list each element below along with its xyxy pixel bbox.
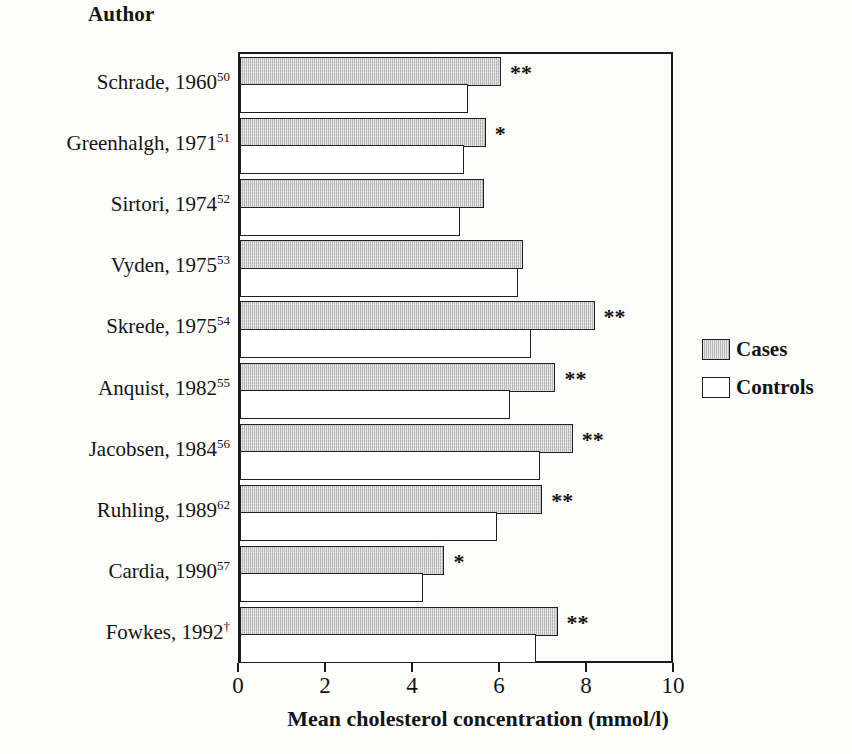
category-label: Sirtori, 197452 (8, 192, 238, 217)
x-axis-tick-label: 4 (406, 673, 418, 699)
bar-controls (240, 268, 518, 297)
bar-controls (240, 512, 497, 541)
bar-cases (240, 546, 444, 575)
bar-group: ** (240, 298, 671, 359)
legend-item-controls: Controls (702, 375, 847, 399)
category-label: Cardia, 199057 (8, 559, 238, 584)
bar-group: ** (240, 360, 671, 421)
bar-group: ** (240, 54, 671, 115)
bar-cases (240, 424, 573, 453)
significance-marker: ** (604, 306, 626, 328)
x-axis-tick (324, 663, 326, 672)
category-label: Schrade, 196050 (8, 70, 238, 95)
significance-marker: ** (551, 490, 573, 512)
legend: Cases Controls (702, 337, 847, 413)
bar-controls (240, 145, 464, 174)
x-axis-tick (498, 663, 500, 672)
x-axis-tick (237, 663, 239, 672)
bar-controls (240, 573, 423, 602)
x-axis-tick (672, 663, 674, 672)
bar-controls (240, 207, 460, 236)
category-axis-labels: Schrade, 196050Greenhalgh, 197151Sirtori… (0, 52, 238, 663)
bar-controls (240, 329, 531, 358)
significance-marker: ** (510, 62, 532, 84)
significance-marker: ** (564, 368, 586, 390)
bar-controls (240, 451, 540, 480)
category-label: Greenhalgh, 197151 (8, 131, 238, 156)
bar-cases (240, 607, 558, 636)
category-label: Anquist, 198255 (8, 376, 238, 401)
x-axis-tick-label: 10 (662, 673, 685, 699)
x-axis-tick-label: 0 (232, 673, 244, 699)
bar-cases (240, 363, 555, 392)
legend-item-cases: Cases (702, 337, 847, 361)
significance-marker: * (495, 123, 506, 145)
x-axis-tick-label: 2 (319, 673, 331, 699)
bar-group: * (240, 543, 671, 604)
bar-controls (240, 84, 468, 113)
x-axis-tick-label: 8 (580, 673, 592, 699)
category-label: Ruhling, 198962 (8, 498, 238, 523)
bar-group: ** (240, 421, 671, 482)
plot-area: ************** (238, 52, 673, 663)
x-axis-tick-label: 6 (493, 673, 505, 699)
bar-controls (240, 634, 536, 663)
plot-inner: ************** (240, 54, 671, 661)
bar-cases (240, 118, 486, 147)
bar-group: ** (240, 482, 671, 543)
bar-cases (240, 179, 484, 208)
bar-group: * (240, 115, 671, 176)
category-label: Skrede, 197554 (8, 314, 238, 339)
bar-controls (240, 390, 510, 419)
x-axis-tick (411, 663, 413, 672)
significance-marker: ** (567, 612, 589, 634)
page-title: Author (88, 2, 155, 27)
bar-cases (240, 301, 595, 330)
bar-group (240, 237, 671, 298)
x-axis: 0246810 (238, 663, 673, 703)
category-label: Vyden, 197553 (8, 253, 238, 278)
legend-label-controls: Controls (736, 375, 814, 400)
controls-swatch-icon (702, 377, 730, 398)
chart-page: Author Schrade, 196050Greenhalgh, 197151… (0, 0, 852, 754)
bar-cases (240, 57, 501, 86)
legend-label-cases: Cases (736, 337, 787, 362)
significance-marker: ** (582, 429, 604, 451)
category-label: Fowkes, 1992† (8, 620, 238, 645)
bar-cases (240, 485, 542, 514)
bar-cases (240, 240, 523, 269)
x-axis-label: Mean cholesterol concentration (mmol/l) (238, 706, 718, 732)
cases-swatch-icon (702, 339, 730, 360)
bar-group (240, 176, 671, 237)
category-label: Jacobsen, 198456 (8, 437, 238, 462)
significance-marker: * (453, 551, 464, 573)
bar-group: ** (240, 604, 671, 665)
x-axis-tick (585, 663, 587, 672)
